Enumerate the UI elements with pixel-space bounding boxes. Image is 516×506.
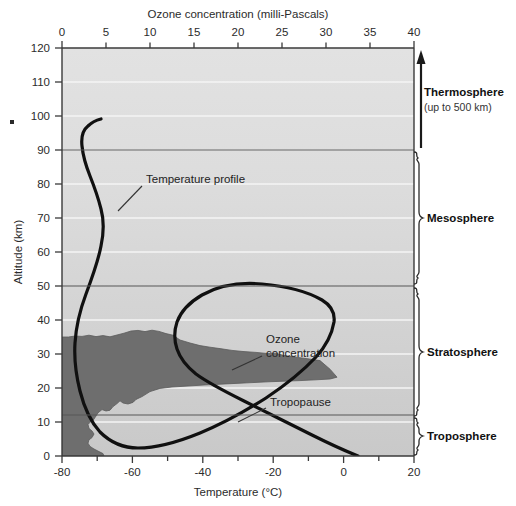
chart-figure: 0 5 10 15 20 25 30 35 40 Ozone concentra… — [0, 0, 516, 506]
bottom-tick-4: 0 — [340, 466, 346, 478]
bottom-axis-title: Temperature (°C) — [194, 486, 282, 498]
top-tick-5: 25 — [276, 26, 289, 38]
layer-label-mesosphere: Mesosphere — [427, 212, 494, 224]
left-tick-1: 10 — [37, 416, 50, 428]
left-tick-6: 60 — [37, 246, 50, 258]
bottom-axis-tick-labels: -80 -60 -40 -20 0 20 — [54, 466, 421, 478]
layer-label-stratosphere: Stratosphere — [427, 346, 498, 358]
top-tick-4: 20 — [232, 26, 245, 38]
bottom-tick-5: 20 — [408, 466, 421, 478]
atmosphere-profile-chart: 0 5 10 15 20 25 30 35 40 Ozone concentra… — [0, 0, 516, 506]
bottom-axis-ticks — [62, 456, 414, 463]
top-tick-2: 10 — [144, 26, 157, 38]
stratosphere-bracket — [414, 288, 423, 416]
top-axis-ticks — [62, 41, 414, 48]
left-axis-tick-labels: 0 10 20 30 40 50 60 70 80 90 100 110 120 — [31, 42, 50, 462]
layer-sublabel-thermosphere: (up to 500 km) — [424, 101, 492, 113]
left-axis-ticks — [55, 48, 62, 456]
left-tick-0: 0 — [44, 450, 50, 462]
top-tick-3: 15 — [188, 26, 201, 38]
annotation-temperature-profile-label: Temperature profile — [146, 173, 245, 185]
left-tick-10: 100 — [31, 110, 50, 122]
bottom-tick-3: -20 — [265, 466, 282, 478]
bottom-tick-0: -80 — [54, 466, 71, 478]
mesosphere-bracket — [414, 152, 423, 284]
scan-artifact-dot — [10, 120, 14, 124]
left-tick-5: 50 — [37, 280, 50, 292]
left-tick-7: 70 — [37, 212, 50, 224]
bottom-tick-1: -60 — [124, 466, 141, 478]
top-tick-1: 5 — [103, 26, 109, 38]
troposphere-bracket — [414, 418, 423, 455]
thermosphere-arrow — [417, 50, 426, 148]
layer-label-thermosphere: Thermosphere — [424, 86, 504, 98]
top-axis-tick-labels: 0 5 10 15 20 25 30 35 40 — [59, 26, 421, 38]
bottom-tick-2: -40 — [194, 466, 211, 478]
layer-label-troposphere: Troposphere — [427, 430, 497, 442]
top-axis-title: Ozone concentration (milli-Pascals) — [148, 8, 329, 20]
top-tick-7: 35 — [364, 26, 377, 38]
left-tick-8: 80 — [37, 178, 50, 190]
top-tick-8: 40 — [408, 26, 421, 38]
left-tick-11: 110 — [32, 76, 50, 88]
annotation-ozone-line1: Ozone — [266, 333, 300, 345]
left-tick-9: 90 — [37, 144, 50, 156]
left-axis-title: Altitude (km) — [12, 220, 24, 285]
annotation-tropopause-label: Tropopause — [270, 396, 331, 408]
left-tick-2: 20 — [37, 382, 50, 394]
left-tick-12: 120 — [31, 42, 50, 54]
left-tick-3: 30 — [37, 348, 50, 360]
annotation-ozone-line2: concentration — [266, 347, 335, 359]
left-tick-4: 40 — [37, 314, 50, 326]
top-tick-0: 0 — [59, 26, 65, 38]
top-tick-6: 30 — [320, 26, 333, 38]
